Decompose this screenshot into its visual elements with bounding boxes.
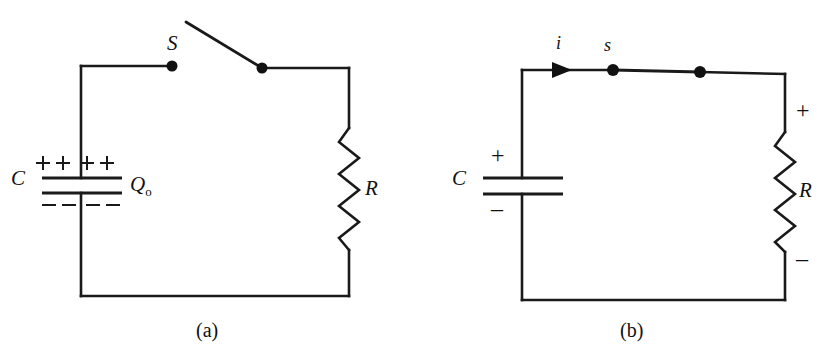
capacitor-a-label: C [11,168,25,189]
switch-a-left-contact[interactable] [167,61,178,72]
caption-b: (b) [620,320,643,340]
circuit-b [483,62,795,300]
caption-a: (a) [196,320,218,340]
switch-a-label: S [167,33,178,54]
resistor-a-label: R [365,178,378,199]
wire-b-top-right [700,72,785,74]
charge-a-label: Qo [130,174,152,198]
switch-a-right-contact[interactable] [257,63,268,74]
switch-b-lever[interactable] [613,70,700,72]
resistor-a [339,128,359,250]
current-arrow-icon [552,62,572,78]
switch-a-lever[interactable] [186,22,262,68]
capacitor-b-label: C [452,168,466,189]
resistor-b-plus-sign: + [796,98,810,122]
switch-b-label: s [604,36,611,54]
circuit-a [36,22,359,296]
capacitor-b-minus-sign: – [491,196,503,220]
circuit-canvas [0,0,831,353]
capacitor-a-positive-charges [36,156,114,170]
capacitor-b-plus-sign: + [491,143,505,167]
switch-b-left-contact[interactable] [607,64,619,76]
figure-root: C Qo S R (a) C + – i s + R – (b) [0,0,831,353]
switch-b-right-contact[interactable] [694,66,706,78]
resistor-b [775,132,795,252]
resistor-b-minus-sign: – [796,246,808,270]
resistor-b-label: R [799,180,812,201]
current-label: i [556,34,561,52]
